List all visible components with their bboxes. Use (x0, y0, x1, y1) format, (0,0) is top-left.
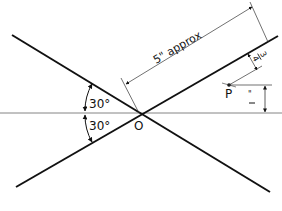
point-p-label: P (225, 87, 232, 101)
extension-line-right (250, 2, 268, 42)
angle-label-upper: 30° (89, 97, 110, 111)
construction-diagram: 30° 30° O 5" approx 3 4 P " (0, 0, 282, 211)
length-label: 5" approx (151, 28, 204, 66)
offset-extension-line (229, 66, 262, 85)
line-ascending (16, 36, 278, 187)
height-label: " (248, 90, 255, 103)
svg-text:4: 4 (250, 55, 260, 64)
svg-text:": " (248, 90, 252, 99)
angle-label-lower: 30° (89, 119, 110, 133)
origin-label: O (134, 119, 143, 133)
line-descending (12, 35, 270, 192)
